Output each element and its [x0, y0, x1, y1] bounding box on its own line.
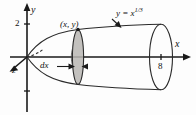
curve-equation-base: y = x — [116, 8, 135, 18]
x-axis-arrowhead — [183, 54, 191, 61]
figure-canvas — [0, 0, 196, 115]
x-tick-label-8: 8 — [158, 62, 163, 71]
point-coordinate-label: (x, y) — [60, 20, 78, 29]
upper-profile-curve — [27, 24, 161, 57]
z-axis-label: z — [12, 66, 16, 75]
y-axis-label: y — [31, 5, 35, 15]
y-tick-label-2: 2 — [15, 19, 20, 28]
representative-disk — [72, 30, 83, 85]
dx-thickness-label: dx — [40, 61, 49, 70]
curve-equation-exponent: 1/3 — [135, 6, 143, 13]
solid-of-revolution-figure: y x z 2 8 (x, y) dx y = x1/3 — [0, 0, 196, 115]
x-axis-label: x — [175, 39, 179, 49]
curve-equation-label: y = x1/3 — [116, 9, 143, 18]
y-axis-arrowhead — [24, 3, 31, 11]
